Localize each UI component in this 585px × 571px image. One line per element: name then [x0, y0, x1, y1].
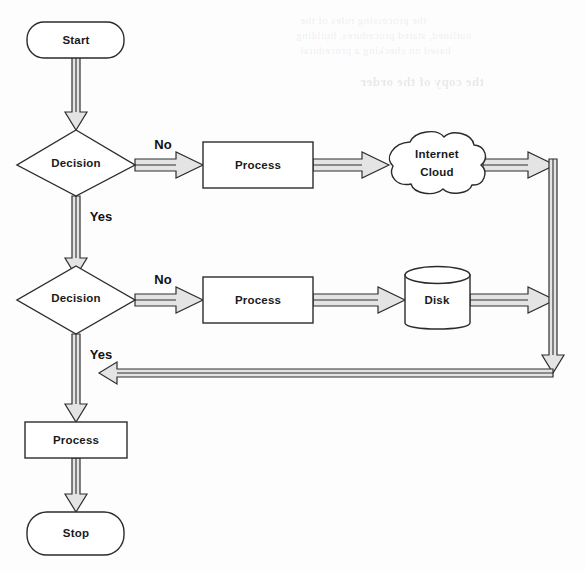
flowchart-svg: Start Decision Process Internet Cloud De…	[0, 0, 585, 571]
node-decision1-label: Decision	[51, 157, 101, 169]
node-process3[interactable]: Process	[25, 422, 127, 458]
node-stop-label: Stop	[63, 527, 89, 539]
edge-label-decision1-yes: Yes	[90, 209, 112, 224]
node-process2[interactable]: Process	[203, 277, 313, 323]
node-decision2-label: Decision	[51, 292, 101, 304]
node-process2-label: Process	[235, 294, 281, 306]
node-internet-cloud-label-line2: Cloud	[420, 166, 454, 178]
node-internet-cloud-label-line1: Internet	[415, 148, 459, 160]
edge-decision1-to-decision2	[65, 196, 87, 276]
edge-process1-to-cloud	[313, 152, 389, 178]
flowchart-canvas: the processing rules of the outlined, st…	[0, 0, 585, 571]
edge-cloud-to-return-bus	[483, 152, 555, 178]
edge-label-decision2-no: No	[154, 272, 171, 287]
edge-return-bus-to-process3	[99, 362, 553, 384]
edge-label-decision2-yes: Yes	[90, 347, 112, 362]
node-disk-label: Disk	[424, 294, 449, 306]
node-decision2[interactable]: Decision	[17, 266, 135, 334]
edge-start-to-decision1	[65, 57, 87, 130]
node-process3-label: Process	[53, 434, 99, 446]
node-process1[interactable]: Process	[203, 142, 313, 188]
edge-disk-to-return-bus	[470, 287, 555, 313]
edge-decision2-to-process2	[135, 287, 203, 313]
edge-process2-to-disk	[313, 287, 405, 313]
edge-label-decision1-no: No	[154, 137, 171, 152]
node-internet-cloud[interactable]: Internet Cloud	[389, 132, 485, 194]
edge-return-bus-vertical	[542, 159, 564, 373]
node-start[interactable]: Start	[27, 22, 124, 58]
node-stop[interactable]: Stop	[27, 512, 124, 555]
edge-decision2-to-process3	[65, 334, 87, 422]
node-disk[interactable]: Disk	[405, 267, 470, 330]
node-process1-label: Process	[235, 159, 281, 171]
edge-decision1-to-process1	[135, 152, 203, 178]
node-start-label: Start	[62, 34, 89, 46]
edge-process3-to-stop	[65, 458, 87, 512]
node-decision1[interactable]: Decision	[17, 130, 135, 196]
